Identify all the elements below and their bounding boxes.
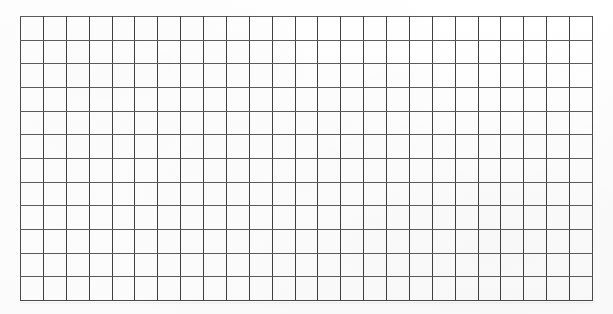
grid-cell[interactable]	[181, 64, 204, 88]
grid-cell[interactable]	[272, 206, 295, 230]
grid-cell[interactable]	[21, 253, 44, 277]
grid-cell[interactable]	[318, 182, 341, 206]
grid-cell[interactable]	[432, 158, 455, 182]
grid-cell[interactable]	[387, 182, 410, 206]
grid-cell[interactable]	[204, 158, 227, 182]
grid-cell[interactable]	[387, 206, 410, 230]
grid-cell[interactable]	[409, 135, 432, 159]
grid-cell[interactable]	[547, 64, 570, 88]
grid-cell[interactable]	[249, 229, 272, 253]
grid-cell[interactable]	[295, 87, 318, 111]
grid-cell[interactable]	[478, 206, 501, 230]
grid-cell[interactable]	[524, 87, 547, 111]
grid-cell[interactable]	[66, 182, 89, 206]
grid-cell[interactable]	[295, 277, 318, 301]
grid-cell[interactable]	[66, 229, 89, 253]
grid-cell[interactable]	[501, 87, 524, 111]
grid-cell[interactable]	[501, 135, 524, 159]
grid-cell[interactable]	[112, 277, 135, 301]
grid-cell[interactable]	[135, 158, 158, 182]
grid-cell[interactable]	[318, 111, 341, 135]
grid-cell[interactable]	[112, 229, 135, 253]
grid-cell[interactable]	[135, 229, 158, 253]
grid-cell[interactable]	[272, 17, 295, 41]
grid-cell[interactable]	[501, 17, 524, 41]
grid-cell[interactable]	[158, 17, 181, 41]
grid-cell[interactable]	[89, 135, 112, 159]
grid-cell[interactable]	[135, 111, 158, 135]
grid-cell[interactable]	[21, 17, 44, 41]
grid-cell[interactable]	[21, 87, 44, 111]
grid-cell[interactable]	[455, 158, 478, 182]
grid-cell[interactable]	[478, 40, 501, 64]
grid-cell[interactable]	[226, 253, 249, 277]
grid-cell[interactable]	[432, 277, 455, 301]
grid-cell[interactable]	[158, 229, 181, 253]
grid-cell[interactable]	[89, 277, 112, 301]
grid-cell[interactable]	[112, 17, 135, 41]
grid-cell[interactable]	[272, 87, 295, 111]
grid-cell[interactable]	[364, 206, 387, 230]
grid-cell[interactable]	[135, 64, 158, 88]
grid-cell[interactable]	[66, 206, 89, 230]
grid-cell[interactable]	[547, 182, 570, 206]
grid-cell[interactable]	[226, 17, 249, 41]
grid-cell[interactable]	[318, 135, 341, 159]
grid-cell[interactable]	[226, 111, 249, 135]
grid-cell[interactable]	[89, 64, 112, 88]
grid-cell[interactable]	[249, 158, 272, 182]
grid-cell[interactable]	[341, 229, 364, 253]
grid-cell[interactable]	[158, 253, 181, 277]
grid-cell[interactable]	[66, 277, 89, 301]
grid-cell[interactable]	[318, 17, 341, 41]
grid-cell[interactable]	[432, 111, 455, 135]
grid-cell[interactable]	[409, 40, 432, 64]
grid-cell[interactable]	[181, 17, 204, 41]
grid-cell[interactable]	[501, 111, 524, 135]
grid-cell[interactable]	[524, 135, 547, 159]
grid-cell[interactable]	[43, 87, 66, 111]
grid-cell[interactable]	[249, 135, 272, 159]
grid-cell[interactable]	[135, 206, 158, 230]
grid-cell[interactable]	[570, 64, 593, 88]
grid-cell[interactable]	[158, 87, 181, 111]
grid-cell[interactable]	[181, 87, 204, 111]
grid-cell[interactable]	[66, 111, 89, 135]
grid-cell[interactable]	[318, 40, 341, 64]
grid-cell[interactable]	[295, 135, 318, 159]
grid-cell[interactable]	[249, 64, 272, 88]
grid-cell[interactable]	[478, 135, 501, 159]
grid-cell[interactable]	[204, 135, 227, 159]
grid-cell[interactable]	[409, 87, 432, 111]
grid-cell[interactable]	[158, 206, 181, 230]
grid-cell[interactable]	[272, 111, 295, 135]
grid-cell[interactable]	[89, 253, 112, 277]
grid-cell[interactable]	[364, 40, 387, 64]
grid-cell[interactable]	[547, 135, 570, 159]
grid-cell[interactable]	[432, 64, 455, 88]
grid-cell[interactable]	[432, 206, 455, 230]
grid-cell[interactable]	[249, 253, 272, 277]
grid-cell[interactable]	[524, 111, 547, 135]
grid-cell[interactable]	[524, 158, 547, 182]
grid-cell[interactable]	[272, 182, 295, 206]
grid-cell[interactable]	[249, 206, 272, 230]
grid-cell[interactable]	[21, 40, 44, 64]
grid-cell[interactable]	[204, 182, 227, 206]
grid-cell[interactable]	[387, 40, 410, 64]
grid-cell[interactable]	[501, 253, 524, 277]
grid-cell[interactable]	[341, 17, 364, 41]
grid-cell[interactable]	[204, 87, 227, 111]
grid-cell[interactable]	[387, 87, 410, 111]
grid-cell[interactable]	[501, 206, 524, 230]
grid-cell[interactable]	[455, 87, 478, 111]
grid-cell[interactable]	[341, 87, 364, 111]
grid-cell[interactable]	[158, 158, 181, 182]
grid-cell[interactable]	[341, 253, 364, 277]
grid-cell[interactable]	[21, 277, 44, 301]
grid-cell[interactable]	[66, 135, 89, 159]
grid-cell[interactable]	[181, 206, 204, 230]
grid-cell[interactable]	[21, 206, 44, 230]
grid-cell[interactable]	[249, 277, 272, 301]
grid-cell[interactable]	[524, 229, 547, 253]
